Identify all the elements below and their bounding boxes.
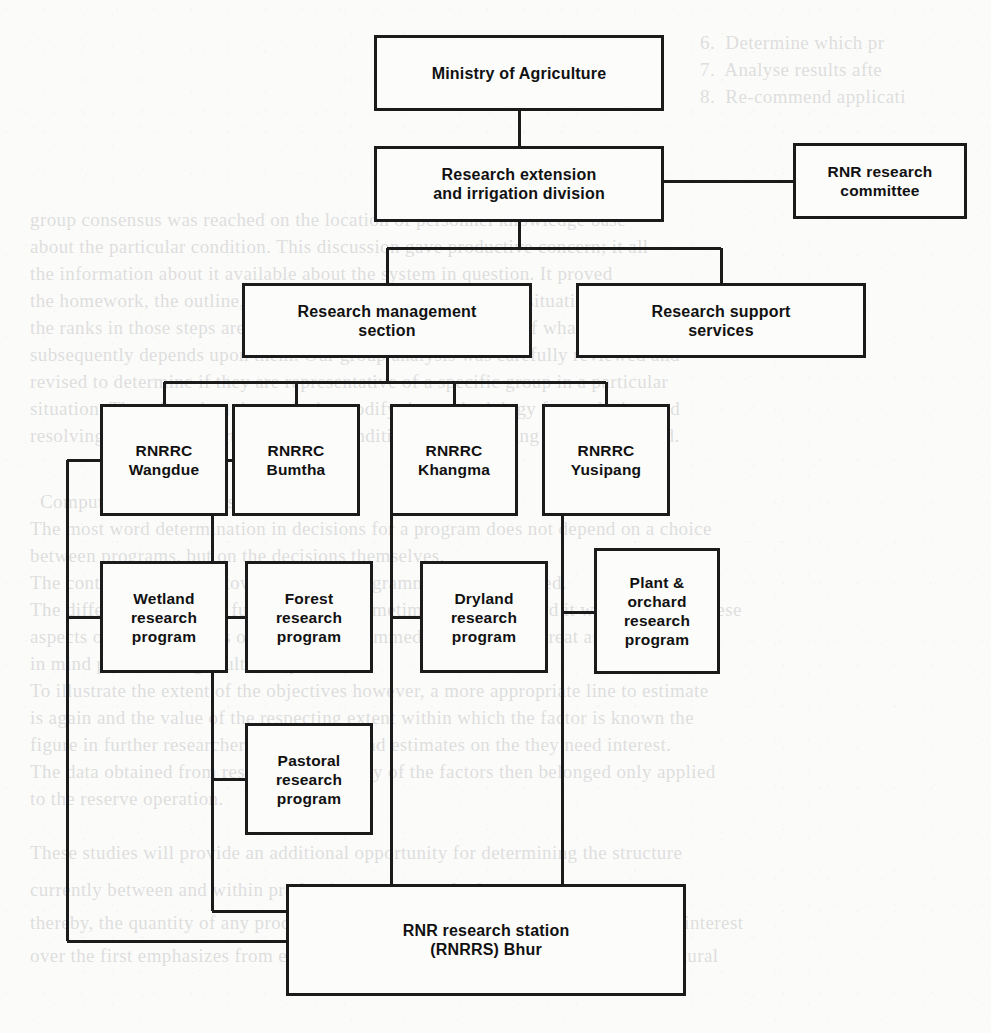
node-rnrrc-bumtha[interactable]: RNRRC Bumtha xyxy=(232,404,360,516)
node-label: Research extension and irrigation divisi… xyxy=(433,165,605,203)
node-dryland-research-program[interactable]: Dryland research program xyxy=(420,561,548,673)
org-chart: Ministry of Agriculture Research extensi… xyxy=(0,0,991,1033)
node-label: Pastoral research program xyxy=(276,751,342,808)
node-pastoral-research-program[interactable]: Pastoral research program xyxy=(245,723,373,835)
node-label: Wetland research program xyxy=(131,589,197,646)
node-rnr-research-station-bhur[interactable]: RNR research station (RNRRS) Bhur xyxy=(286,884,686,996)
node-label: RNR research committee xyxy=(828,162,933,200)
node-label: RNRRC Yusipang xyxy=(571,441,642,479)
node-label: RNR research station (RNRRS) Bhur xyxy=(403,921,570,959)
node-ministry-of-agriculture[interactable]: Ministry of Agriculture xyxy=(374,35,664,111)
node-forest-research-program[interactable]: Forest research program xyxy=(245,561,373,673)
node-label: Plant & orchard research program xyxy=(624,573,690,649)
node-label: RNRRC Bumtha xyxy=(267,441,326,479)
node-label: Research management section xyxy=(298,302,477,340)
node-rnrrc-khangma[interactable]: RNRRC Khangma xyxy=(390,404,518,516)
node-label: Dryland research program xyxy=(451,589,517,646)
node-wetland-research-program[interactable]: Wetland research program xyxy=(100,561,228,673)
node-rnrrc-wangdue[interactable]: RNRRC Wangdue xyxy=(100,404,228,516)
node-label: RNRRC Khangma xyxy=(418,441,490,479)
node-label: Research support services xyxy=(651,302,790,340)
node-research-support-services[interactable]: Research support services xyxy=(576,283,866,358)
node-label: RNRRC Wangdue xyxy=(129,441,200,479)
node-label: Forest research program xyxy=(276,589,342,646)
node-research-management-section[interactable]: Research management section xyxy=(242,283,532,358)
node-research-extension-and-irrigation-division[interactable]: Research extension and irrigation divisi… xyxy=(374,146,664,222)
node-plant-and-orchard-research-program[interactable]: Plant & orchard research program xyxy=(594,548,720,674)
node-label: Ministry of Agriculture xyxy=(432,64,607,83)
node-rnr-research-committee[interactable]: RNR research committee xyxy=(793,143,967,219)
node-rnrrc-yusipang[interactable]: RNRRC Yusipang xyxy=(542,404,670,516)
